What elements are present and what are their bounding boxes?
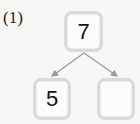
arrow-left <box>52 53 84 76</box>
arrow-right <box>84 53 117 76</box>
part-right-answer-box[interactable] <box>97 78 135 120</box>
whole-number-box: 7 <box>64 11 103 52</box>
part-left-number: 5 <box>46 86 58 112</box>
whole-number: 7 <box>77 19 89 45</box>
part-left-box: 5 <box>33 78 71 120</box>
